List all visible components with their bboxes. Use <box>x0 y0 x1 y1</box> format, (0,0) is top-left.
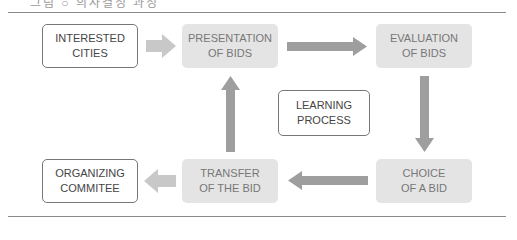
arrow-down-icon <box>415 76 434 152</box>
node-label: EVALUATION OF BIDS <box>390 31 458 61</box>
node-learning-process: LEARNING PROCESS <box>278 90 370 136</box>
node-label: INTERESTED CITIES <box>55 31 125 61</box>
node-evaluation-of-bids: EVALUATION OF BIDS <box>376 24 472 68</box>
node-label: LEARNING PROCESS <box>296 98 352 128</box>
node-organizing-commitee: ORGANIZING COMMITEE <box>42 159 138 203</box>
node-label: TRANSFER OF THE BID <box>199 166 261 196</box>
arrow-right-icon <box>287 37 367 56</box>
node-choice-of-a-bid: CHOICE OF A BID <box>376 159 472 203</box>
node-transfer-of-the-bid: TRANSFER OF THE BID <box>182 159 278 203</box>
arrow-left-icon <box>288 171 368 190</box>
node-presentation-of-bids: PRESENTATION OF BIDS <box>182 24 278 68</box>
node-label: CHOICE OF A BID <box>401 166 447 196</box>
arrow-up-icon <box>221 76 240 152</box>
arrow-right-icon <box>146 34 176 58</box>
node-interested-cities: INTERESTED CITIES <box>42 24 138 68</box>
node-label: PRESENTATION OF BIDS <box>188 31 272 61</box>
arrow-left-icon <box>144 169 176 193</box>
node-label: ORGANIZING COMMITEE <box>55 166 125 196</box>
